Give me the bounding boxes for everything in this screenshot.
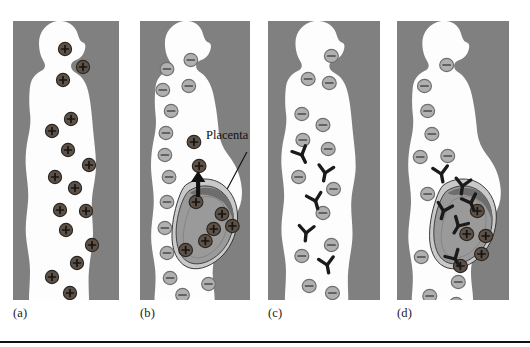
panel-label-c: (c)	[268, 306, 282, 321]
rh-negative-cell	[158, 221, 172, 234]
rh-negative-cell	[295, 107, 309, 120]
rh-negative-cell	[160, 62, 174, 75]
rh-positive-cell	[226, 219, 240, 232]
rh-negative-cell	[425, 127, 439, 140]
rh-negative-cell	[327, 182, 341, 195]
rh-negative-cell	[302, 279, 316, 292]
rh-negative-cell	[176, 288, 190, 300]
rh-negative-cell	[160, 246, 174, 259]
panel-c	[268, 21, 380, 300]
rh-positive-cell	[53, 203, 66, 216]
rh-negative-cell	[164, 104, 178, 117]
rh-negative-cell	[423, 289, 437, 300]
rh-positive-cell	[79, 204, 92, 217]
rh-positive-cell	[76, 60, 89, 73]
rh-positive-cell	[61, 143, 74, 156]
rh-positive-cell	[64, 112, 77, 125]
figure-canvas: (a)(b)(c)(d)Placenta	[0, 0, 530, 347]
rh-negative-cell	[451, 275, 465, 288]
rh-positive-cell	[59, 223, 72, 236]
rh-positive-cell	[207, 222, 221, 235]
panel-b	[140, 21, 250, 300]
rh-negative-cell	[441, 149, 455, 162]
rh-negative-cell	[316, 118, 330, 131]
rh-negative-cell	[292, 170, 306, 183]
rh-negative-cell	[324, 49, 338, 62]
rh-positive-cell	[85, 238, 98, 251]
rh-negative-cell	[417, 79, 431, 92]
rh-negative-cell	[160, 195, 174, 208]
rh-negative-cell	[325, 286, 339, 299]
rh-negative-cell	[324, 238, 338, 251]
panel-label-d: (d)	[397, 306, 412, 321]
rh-positive-cell	[63, 286, 76, 299]
rh-negative-cell	[413, 150, 427, 163]
rh-negative-cell	[163, 271, 177, 284]
rh-positive-cell	[199, 234, 213, 247]
rh-positive-cell	[189, 195, 203, 208]
rh-positive-cell	[192, 159, 206, 172]
rh-negative-cell	[322, 76, 336, 89]
rh-negative-cell	[296, 133, 310, 146]
panel-label-b: (b)	[140, 306, 155, 321]
rh-negative-cell	[421, 187, 435, 200]
rh-positive-cell	[58, 42, 71, 55]
rh-negative-cell	[162, 170, 176, 183]
rh-negative-cell	[414, 250, 428, 263]
rh-positive-cell	[479, 229, 493, 242]
panel-label-a: (a)	[13, 306, 27, 321]
rh-negative-cell	[159, 126, 173, 139]
rh-positive-cell	[215, 207, 229, 220]
panel-a	[13, 21, 119, 300]
panel-a-graphic	[13, 21, 119, 300]
rh-positive-cell	[70, 256, 83, 269]
panel-c-graphic	[268, 21, 380, 300]
rh-positive-cell	[48, 170, 61, 183]
rh-negative-cell	[301, 72, 315, 85]
rh-positive-cell	[460, 227, 474, 240]
rh-positive-cell	[68, 181, 81, 194]
placenta-annotation-label: Placenta	[206, 128, 248, 143]
bottom-divider-rule	[0, 341, 530, 343]
panel-d-graphic	[397, 21, 509, 300]
rh-positive-cell	[475, 247, 489, 260]
rh-negative-cell	[156, 83, 170, 96]
rh-positive-cell	[56, 73, 69, 86]
rh-negative-cell	[321, 142, 335, 155]
rh-positive-cell	[45, 270, 58, 283]
rh-negative-cell	[440, 58, 454, 71]
rh-negative-cell	[182, 79, 196, 92]
rh-negative-cell	[421, 104, 435, 117]
rh-negative-cell	[202, 277, 216, 290]
rh-positive-cell	[45, 124, 58, 137]
panel-b-graphic	[140, 21, 250, 300]
rh-negative-cell	[295, 249, 309, 262]
rh-negative-cell	[184, 53, 198, 66]
panel-d	[397, 21, 509, 300]
rh-negative-cell	[158, 148, 172, 161]
rh-positive-cell	[82, 158, 95, 171]
rh-positive-cell	[179, 243, 193, 256]
rh-positive-cell	[187, 135, 201, 148]
